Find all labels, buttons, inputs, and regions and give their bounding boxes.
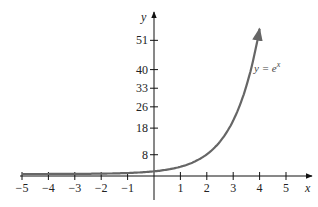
x-ticks: −5−4−3−2−112345 xyxy=(16,172,289,195)
y-tick-label: 8 xyxy=(142,148,148,162)
x-tick-label: −4 xyxy=(42,181,55,195)
y-tick-label: 18 xyxy=(136,121,148,135)
equation-sup: x xyxy=(276,60,281,69)
x-tick-label: −1 xyxy=(121,181,134,195)
x-axis-label: x xyxy=(304,181,311,195)
x-tick-label: −2 xyxy=(95,181,108,195)
x-tick-label: 1 xyxy=(177,181,183,195)
y-tick-label: 33 xyxy=(136,81,148,95)
x-tick-label: 3 xyxy=(230,181,236,195)
y-tick-label: 51 xyxy=(136,33,148,47)
equation-label: y = ex xyxy=(253,60,281,74)
y-tick-label: 40 xyxy=(136,63,148,77)
x-tick-label: 2 xyxy=(204,181,210,195)
y-tick-label: 26 xyxy=(136,100,148,114)
x-tick-label: 5 xyxy=(283,181,289,195)
x-tick-label: 4 xyxy=(257,181,263,195)
equation-main: y = e xyxy=(253,62,277,74)
x-tick-label: −3 xyxy=(68,181,81,195)
y-ticks: 81826334051 xyxy=(136,33,158,161)
y-axis-label: y xyxy=(140,10,147,24)
exponential-chart: −5−4−3−2−112345 81826334051 x y y = ex xyxy=(0,0,318,207)
x-tick-label: −5 xyxy=(16,181,29,195)
